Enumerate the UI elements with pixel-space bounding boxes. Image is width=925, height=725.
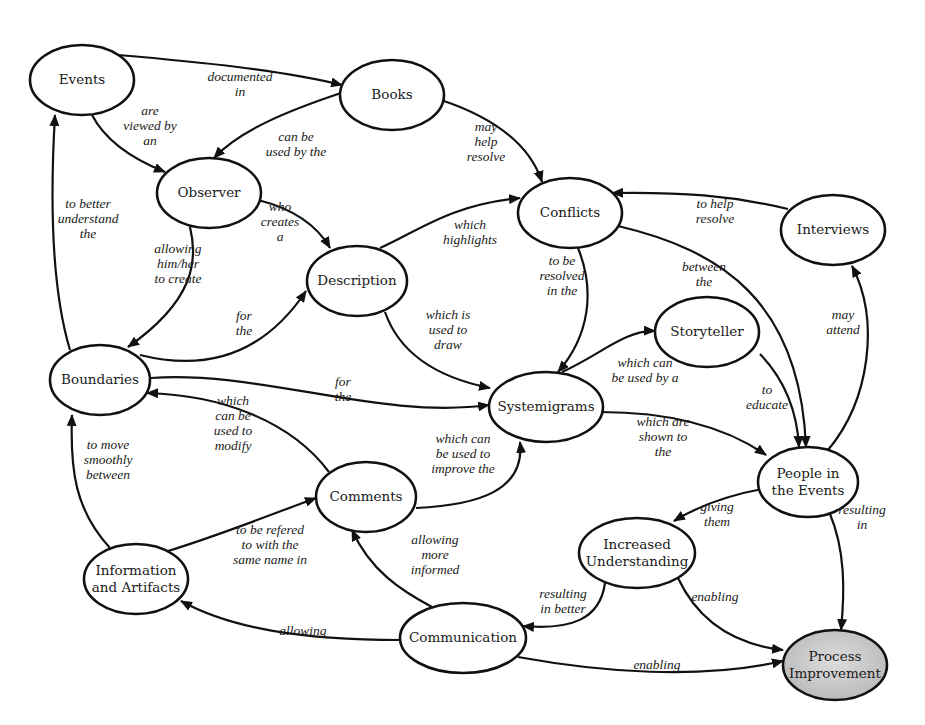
node-label-storyteller: Storyteller: [670, 323, 744, 339]
node-label-boundaries: Boundaries: [61, 371, 139, 387]
node-label-books: Books: [371, 86, 412, 102]
edge-label-comments-to-boundaries: whichcan beused tomodify: [214, 393, 253, 453]
edge-boundaries-to-systemigrams: [151, 377, 489, 408]
node-label-events: Events: [59, 71, 106, 87]
edge-label-conflicts-to-systemigrams: to beresolvedin the: [539, 253, 584, 298]
edge-label-systemigrams-to-storyteller: which canbe used by a: [611, 355, 678, 385]
node-boundaries: Boundaries: [50, 345, 150, 415]
edge-label-understanding-to-process: enabling: [691, 589, 738, 604]
node-observer: Observer: [157, 158, 261, 228]
node-label-interviews: Interviews: [797, 221, 869, 237]
edge-label-books-to-conflicts: mayhelpresolve: [467, 119, 505, 164]
node-label-description: Description: [317, 272, 397, 288]
edge-label-conflicts-to-people: betweenthe: [682, 259, 726, 289]
node-interviews: Interviews: [781, 195, 885, 265]
node-label-people: People inthe Events: [772, 464, 845, 497]
edge-label-people-to-understanding: givingthem: [700, 499, 734, 529]
edge-label-people-to-process: resultingin: [838, 502, 886, 532]
node-label-observer: Observer: [177, 184, 241, 200]
edge-boundaries-to-description: [140, 291, 306, 361]
edge-label-interviews-to-conflicts: to helpresolve: [696, 196, 734, 226]
edge-label-communication-to-info: allowing: [279, 623, 327, 638]
edge-label-description-to-conflicts: whichhighlights: [443, 217, 497, 247]
edge-people-to-process: [830, 514, 843, 630]
node-books: Books: [340, 60, 444, 130]
edge-label-events-to-observer: areviewed byan: [123, 103, 177, 148]
edge-label-communication-to-comments: allowingmoreinformed: [411, 532, 460, 577]
edge-label-storyteller-to-people: toeducate: [746, 382, 788, 412]
edge-label-boundaries-to-events: to betterunderstandthe: [58, 196, 119, 241]
edge-people-to-interviews: [828, 266, 868, 450]
node-label-comments: Comments: [329, 488, 402, 504]
edge-label-description-to-systemigrams: which isused todraw: [426, 307, 471, 352]
node-label-info: Informationand Artifacts: [92, 561, 181, 594]
edge-boundaries-to-events: [53, 115, 70, 350]
edge-label-systemigrams-to-people: which areshown tothe: [636, 414, 689, 459]
edge-label-observer-to-description: whocreatesa: [261, 199, 299, 244]
edge-label-boundaries-to-systemigrams: forthe: [335, 374, 352, 404]
edge-label-people-to-interviews: mayattend: [826, 307, 860, 337]
node-label-communication: Communication: [409, 629, 517, 645]
node-process: ProcessImprovement: [783, 630, 887, 700]
node-events: Events: [30, 45, 134, 115]
node-info: Informationand Artifacts: [84, 544, 188, 614]
systemigram-diagram: EventsBooksObserverConflictsInterviewsDe…: [0, 0, 925, 725]
node-conflicts: Conflicts: [518, 178, 622, 248]
edge-label-info-to-comments: to be referedto with thesame name in: [233, 522, 307, 567]
edge-label-events-to-books: documentedin: [207, 69, 272, 99]
node-comments: Comments: [316, 462, 416, 532]
edge-label-books-to-observer: can beused by the: [266, 129, 327, 159]
edge-label-communication-to-process: enabling: [633, 657, 680, 672]
node-label-systemigrams: Systemigrams: [497, 398, 594, 414]
edge-label-info-to-boundaries: to movesmoothlybetween: [84, 437, 133, 482]
node-systemigrams: Systemigrams: [489, 372, 603, 442]
edge-label-boundaries-to-description: forthe: [236, 308, 253, 338]
edge-label-observer-to-boundaries: allowinghim/herto create: [154, 241, 202, 286]
node-communication: Communication: [400, 603, 526, 673]
node-understanding: IncreasedUnderstanding: [579, 518, 695, 588]
nodes-layer: EventsBooksObserverConflictsInterviewsDe…: [30, 45, 887, 700]
edge-label-comments-to-systemigrams: which canbe used toimprove the: [431, 431, 495, 476]
node-label-conflicts: Conflicts: [540, 204, 600, 220]
node-description: Description: [307, 246, 407, 316]
edge-label-understanding-to-communication: resultingin better: [539, 586, 587, 616]
